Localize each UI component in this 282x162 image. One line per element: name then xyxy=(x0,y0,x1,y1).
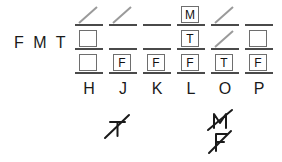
cell-box xyxy=(249,30,267,47)
cell-box: T xyxy=(181,30,199,47)
cell-rule xyxy=(177,24,205,26)
cell-M-J[interactable] xyxy=(106,28,140,52)
cell-box: T xyxy=(215,54,233,71)
column-label-o: O xyxy=(208,80,242,98)
column-label-k: K xyxy=(140,80,174,98)
column-label-row: H J K L O P xyxy=(72,80,276,98)
cell-T-P[interactable]: F xyxy=(242,52,276,76)
cell-F-P[interactable] xyxy=(242,4,276,28)
cell-rule xyxy=(143,48,171,50)
cell-T-O[interactable]: T xyxy=(208,52,242,76)
cell-rule xyxy=(75,48,103,50)
cell-box xyxy=(79,54,97,71)
cell-rule xyxy=(177,48,205,50)
cell-rule xyxy=(75,72,103,74)
cell-T-J[interactable]: F xyxy=(106,52,140,76)
cell-rule xyxy=(143,72,171,74)
cell-F-H[interactable] xyxy=(72,4,106,28)
slash-icon xyxy=(214,30,235,48)
column-label-j: J xyxy=(106,80,140,98)
cell-rule xyxy=(109,24,137,26)
slash-icon xyxy=(112,6,133,24)
cell-box: M xyxy=(181,6,199,23)
cell-rule xyxy=(211,72,239,74)
cell-M-O[interactable] xyxy=(208,28,242,52)
cell-M-K[interactable] xyxy=(140,28,174,52)
row-label-fmt: F M T xyxy=(14,32,72,54)
slash-icon xyxy=(214,6,235,24)
cell-T-H[interactable] xyxy=(72,52,106,76)
cell-rule xyxy=(109,72,137,74)
cell-F-K[interactable] xyxy=(140,4,174,28)
cell-rule xyxy=(109,48,137,50)
cell-rule xyxy=(177,72,205,74)
column-label-l: L xyxy=(174,80,208,98)
cell-rule xyxy=(143,24,171,26)
cell-box xyxy=(79,30,97,47)
diagram-canvas: F M T M xyxy=(0,0,282,162)
cell-F-J[interactable] xyxy=(106,4,140,28)
cell-box: F xyxy=(181,54,199,71)
cell-T-L[interactable]: F xyxy=(174,52,208,76)
column-label-h: H xyxy=(72,80,106,98)
slash-icon xyxy=(78,6,99,24)
cell-box: F xyxy=(113,54,131,71)
cell-T-K[interactable]: F xyxy=(140,52,174,76)
cell-F-L[interactable]: M xyxy=(174,4,208,28)
handwritten-annotation-o-f xyxy=(206,129,240,155)
cell-M-H[interactable] xyxy=(72,28,106,52)
cell-M-P[interactable] xyxy=(242,28,276,52)
cell-rule xyxy=(245,24,273,26)
cell-F-O[interactable] xyxy=(208,4,242,28)
cell-rule xyxy=(211,48,239,50)
cell-rule xyxy=(75,24,103,26)
cell-grid: M T xyxy=(72,4,276,76)
cell-M-L[interactable]: T xyxy=(174,28,208,52)
cell-rule xyxy=(245,72,273,74)
column-label-p: P xyxy=(242,80,276,98)
handwritten-annotation-j-t xyxy=(103,112,137,142)
cell-rule xyxy=(245,48,273,50)
cell-box: F xyxy=(147,54,165,71)
cell-rule xyxy=(211,24,239,26)
cell-box: F xyxy=(249,54,267,71)
